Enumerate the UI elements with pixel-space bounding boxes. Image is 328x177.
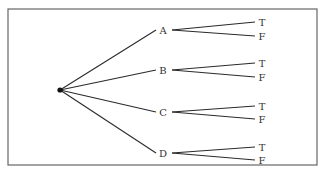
node-b-label: B	[159, 65, 166, 76]
tree-diagram: ATFBTFCTFDTF	[0, 0, 328, 177]
node-d-label: D	[159, 148, 167, 159]
edge-b-f	[172, 70, 255, 77]
edge-root-b	[60, 70, 156, 90]
leaf-a-t-label: T	[259, 17, 266, 28]
leaf-b-t-label: T	[259, 58, 266, 69]
leaf-d-f-label: F	[259, 155, 266, 166]
edge-b-t	[172, 63, 255, 70]
leaf-c-t-label: T	[259, 101, 266, 112]
leaf-c-f-label: F	[259, 114, 266, 125]
node-a-label: A	[158, 25, 167, 36]
tree-labels: ATFBTFCTFDTF	[158, 17, 265, 166]
leaf-b-f-label: F	[259, 72, 266, 83]
tree-edges	[60, 22, 255, 160]
edge-root-c	[60, 90, 156, 112]
edge-root-a	[60, 30, 156, 90]
node-c-label: C	[159, 107, 167, 118]
edge-d-t	[172, 147, 255, 153]
root-node	[57, 87, 62, 92]
leaf-d-t-label: T	[259, 142, 266, 153]
edge-d-f	[172, 153, 255, 160]
edge-a-f	[172, 30, 255, 36]
edge-root-d	[60, 90, 156, 153]
edge-c-t	[172, 106, 255, 112]
edge-c-f	[172, 112, 255, 119]
leaf-a-f-label: F	[259, 31, 266, 42]
edge-a-t	[172, 22, 255, 30]
